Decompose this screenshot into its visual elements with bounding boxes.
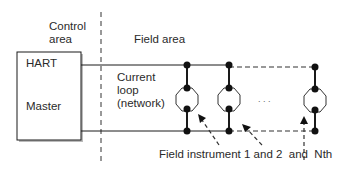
field-instrument-1 <box>176 62 198 135</box>
loop-line1: Current <box>117 71 165 84</box>
field-instrument-2 <box>218 62 240 135</box>
ellipsis: . . . <box>258 93 271 106</box>
loop-line3: (network) <box>117 97 165 110</box>
control-area-line2: area <box>49 33 86 46</box>
field-area-label: Field area <box>134 33 185 46</box>
control-area-label: Control area <box>49 20 86 46</box>
control-area-line1: Control <box>49 20 86 33</box>
master-label-line2: Master <box>26 100 61 113</box>
arrow-instrument-2 <box>242 124 262 145</box>
instrument-caption: Field instrument 1 and 2 and Nth <box>159 148 332 161</box>
arrow-instrument-1 <box>198 114 219 145</box>
current-loop-label: Current loop (network) <box>117 71 165 110</box>
loop-line2: loop <box>117 84 165 97</box>
master-label-line1: HART <box>26 57 57 70</box>
